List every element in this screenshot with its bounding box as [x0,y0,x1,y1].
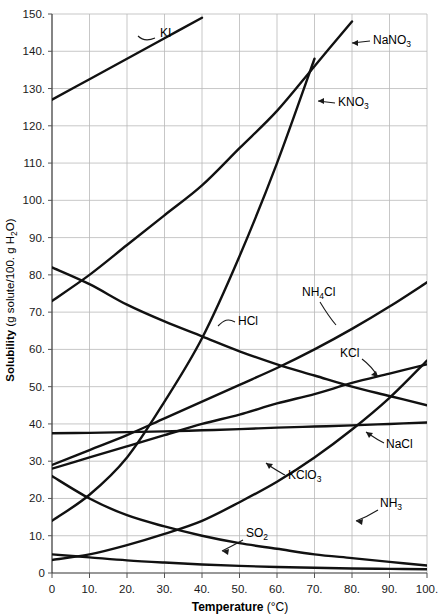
x-tick-label: 90. [382,583,398,595]
x-tick-label: 30. [157,583,173,595]
y-axis-label: Solubility (g solute/100. g H2O) [4,218,19,381]
leader-hcl [218,320,235,326]
series-label-kcl: KCl [340,346,359,360]
curve-kno3 [52,59,315,521]
leader-nh3 [356,510,378,521]
series-leader-lines [138,36,384,555]
y-tick-label: 10. [29,530,45,542]
series-label-nacl: NaCl [386,437,413,451]
leader-arrow-nano3 [352,40,358,46]
solubility-plot-svg: 010.20.30.40.50.60.70.80.90.100.110.120.… [0,0,448,616]
x-tick-label: 80. [344,583,360,595]
series-labels: KINaNO3KNO3NH4ClHClKClNaClKClO3NH3SO2 [160,26,413,542]
x-axis-tick-labels: 010.20.30.40.50.60.70.80.90.100. [49,583,438,595]
solubility-chart: 010.20.30.40.50.60.70.80.90.100.110.120.… [0,0,448,616]
x-tick-label: 60. [269,583,285,595]
series-label-nh4cl: NH4Cl [302,285,335,301]
y-axis-tick-labels: 010.20.30.40.50.60.70.80.90.100.110.120.… [23,8,45,579]
y-tick-label: 100. [23,194,45,206]
x-tick-label: 20. [119,583,135,595]
y-tick-label: 110. [23,157,45,169]
leader-arrow-kclo3 [266,463,273,469]
x-tick-label: 50. [232,583,248,595]
y-tick-label: 120. [23,120,45,132]
y-tick-label: 130. [23,83,45,95]
series-label-so2: SO2 [246,526,268,542]
x-tick-label: 40. [194,583,210,595]
x-axis-label: Temperature (°C) [192,600,289,614]
x-tick-label: 10. [82,583,98,595]
leader-nh4cl [320,302,336,325]
series-label-kclo3: KClO3 [288,468,322,484]
y-tick-label: 140. [23,45,45,57]
leader-arrow-kno3 [318,98,324,104]
leader-arrow-nacl [366,432,373,438]
x-tick-label: 0 [49,583,55,595]
y-tick-label: 80. [29,269,45,281]
y-tick-label: 70. [29,306,45,318]
series-label-hcl: HCl [238,314,258,328]
series-label-kno3: KNO3 [338,95,369,111]
y-tick-label: 20. [29,492,45,504]
leader-ki [138,36,155,40]
y-tick-label: 60. [29,343,45,355]
y-tick-label: 0 [39,567,45,579]
tick-marks [48,14,427,578]
y-tick-label: 40. [29,418,45,430]
y-tick-label: 150. [23,8,45,20]
series-label-nano3: NaNO3 [373,33,411,49]
x-tick-label: 100. [416,583,438,595]
y-tick-label: 30. [29,455,45,467]
x-tick-label: 70. [307,583,323,595]
series-label-ki: KI [160,26,171,40]
y-tick-label: 90. [29,232,45,244]
y-tick-label: 50. [29,381,45,393]
